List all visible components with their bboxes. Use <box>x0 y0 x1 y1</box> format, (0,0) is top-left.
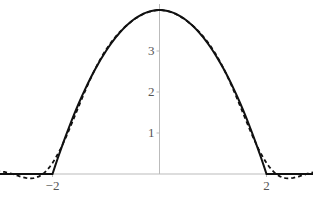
y-tick-label: 1 <box>148 125 155 140</box>
dashed-curve <box>0 10 313 178</box>
x-tick-label: 2 <box>263 178 270 193</box>
chart-container: −4−224123 <box>0 0 313 202</box>
y-tick-label: 2 <box>148 84 155 99</box>
plot-svg: −4−224123 <box>0 0 313 202</box>
x-tick-label: −2 <box>46 178 60 193</box>
curves <box>0 10 313 178</box>
y-tick-label: 3 <box>148 43 155 58</box>
axes <box>0 4 313 177</box>
